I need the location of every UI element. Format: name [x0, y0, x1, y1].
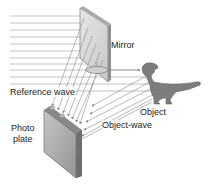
reference-wave-label: Reference wave — [10, 87, 76, 97]
photo-plate-label-line2: plate — [13, 134, 33, 144]
object-wave-label: Object-wave — [102, 120, 152, 130]
object-label: Object — [140, 107, 166, 117]
photo-plate-label-line1: Photo — [11, 123, 35, 133]
mirror-label: Mirror — [111, 40, 135, 50]
photo-plate — [44, 106, 82, 178]
dinosaur-object — [142, 63, 201, 104]
